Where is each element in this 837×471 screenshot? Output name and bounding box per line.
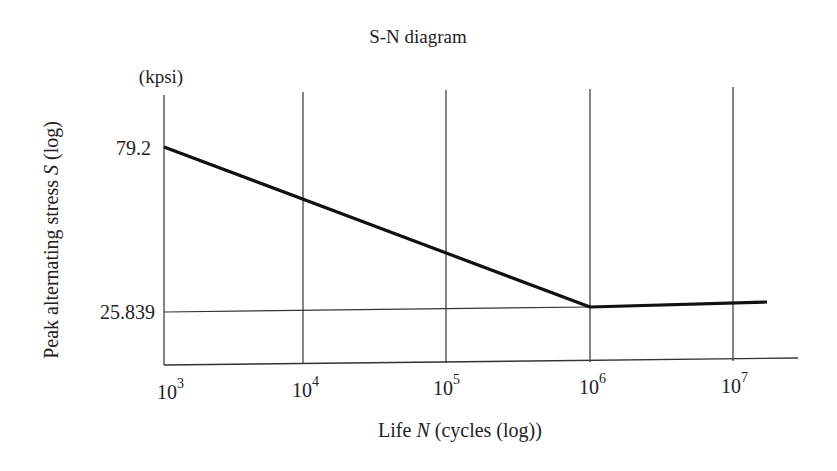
svg-text:105: 105	[433, 372, 460, 399]
x-axis	[164, 358, 798, 365]
y-tick-79-2: 79.2	[116, 137, 151, 159]
sn-chart: S-N diagram (kpsi) 79.2 25.839 103 104 1…	[0, 0, 837, 471]
svg-text:106: 106	[579, 371, 606, 398]
x-axis-label: Life N (cycles (log))	[378, 419, 542, 442]
y-unit-label: (kpsi)	[139, 66, 183, 88]
chart-title: S-N diagram	[369, 26, 467, 47]
svg-text:107: 107	[721, 370, 748, 397]
svg-text:104: 104	[292, 374, 319, 401]
y-axis-label: Peak alternating stress S (log)	[40, 121, 63, 359]
svg-text:103: 103	[157, 376, 184, 403]
endurance-limit-gridline	[164, 307, 590, 312]
y-tick-25-839: 25.839	[100, 301, 155, 323]
vertical-gridlines	[164, 87, 733, 365]
sn-curve	[164, 147, 767, 307]
x-tick-labels: 103 104 105 106 107	[157, 370, 748, 403]
